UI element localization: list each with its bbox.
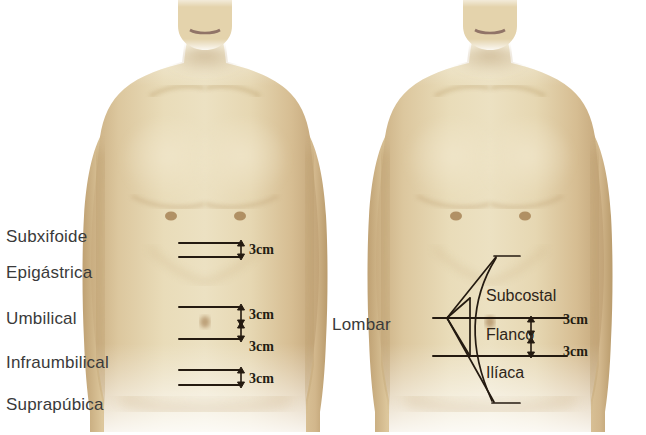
left-rule-line <box>178 306 240 308</box>
head-and-chin <box>463 0 517 50</box>
label-suprapubica: Suprapúbica <box>6 396 104 413</box>
label-subxifoide: Subxifoide <box>6 228 87 245</box>
dimension-label-3cm: 3cm <box>563 345 588 359</box>
pectoral-left <box>124 120 212 200</box>
costal-margin <box>150 248 260 282</box>
anatomy-diagram: Subxifoide Epigástrica Umbilical Infraum… <box>0 0 646 435</box>
costal-margin <box>435 248 545 282</box>
label-epigastrica: Epigástrica <box>6 264 92 281</box>
label-subcostal: Subcostal <box>486 288 556 304</box>
right-arm <box>278 128 328 432</box>
torso-body <box>91 30 319 432</box>
label-umbilical: Umbilical <box>6 310 77 327</box>
clavicle-right <box>491 86 545 96</box>
left-dimension-arrows <box>238 240 245 388</box>
right-rule-line <box>432 317 568 319</box>
left-rule-line <box>178 256 240 258</box>
nipple-left <box>165 212 177 221</box>
clavicle-left <box>150 86 204 96</box>
nipple-left <box>450 212 462 221</box>
left-rule-line <box>178 369 240 371</box>
pectoral-right <box>483 120 571 200</box>
clavicle-right <box>206 86 260 96</box>
neck-shadow <box>456 46 524 78</box>
nipple-right <box>519 212 531 221</box>
mouth <box>475 30 505 33</box>
dimension-label-3cm: 3cm <box>563 313 588 327</box>
label-infraumbilical: Infraumbilical <box>6 354 109 371</box>
left-rule-line <box>178 242 240 244</box>
clavicle-left <box>435 86 489 96</box>
label-lombar: Lombar <box>332 316 391 333</box>
head-and-chin <box>178 0 232 50</box>
nipple-right <box>234 212 246 221</box>
label-flanco: Flanco <box>486 327 534 343</box>
right-rule-line <box>432 355 568 357</box>
right-arm <box>563 128 613 432</box>
dimension-label-3cm: 3cm <box>249 308 274 322</box>
left-rule-line <box>178 338 240 340</box>
pectoral-left <box>409 120 497 200</box>
left-torso-figure <box>83 0 328 432</box>
left-arm <box>368 128 418 432</box>
dimension-label-3cm: 3cm <box>249 243 274 257</box>
pectoral-right <box>198 120 286 200</box>
label-iliaca: Ilíaca <box>486 365 524 381</box>
mouth <box>190 30 220 33</box>
dimension-label-3cm: 3cm <box>249 340 274 354</box>
left-rule-line <box>178 384 240 386</box>
dimension-label-3cm: 3cm <box>249 372 274 386</box>
navel <box>200 316 210 328</box>
neck-shadow <box>171 46 239 78</box>
